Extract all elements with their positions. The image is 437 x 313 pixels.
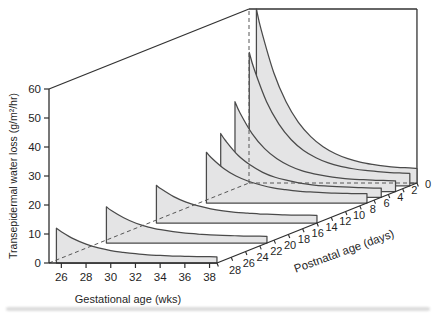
svg-text:28: 28: [229, 264, 241, 276]
svg-text:14: 14: [325, 221, 337, 233]
svg-text:12: 12: [339, 215, 351, 227]
svg-text:26: 26: [243, 257, 255, 269]
svg-text:30: 30: [28, 170, 41, 182]
svg-text:2: 2: [411, 184, 417, 196]
svg-text:28: 28: [80, 271, 93, 283]
svg-text:18: 18: [298, 233, 310, 245]
svg-text:50: 50: [28, 112, 41, 124]
tewl-3d-chart-svg: 0102030405060262830323436382826242220181…: [0, 0, 437, 313]
svg-text:10: 10: [28, 228, 41, 240]
svg-text:36: 36: [178, 271, 191, 283]
svg-text:60: 60: [28, 83, 41, 95]
svg-text:38: 38: [203, 271, 216, 283]
svg-text:4: 4: [397, 191, 403, 203]
svg-text:10: 10: [353, 209, 365, 221]
svg-text:32: 32: [129, 271, 142, 283]
hidden-edges-dashed: [49, 9, 417, 263]
x-axis-title: Gestational age (wks): [75, 293, 181, 305]
ribbon-series: [56, 9, 417, 263]
svg-text:22: 22: [270, 245, 282, 257]
cropped-caption-edge: [6, 307, 430, 311]
svg-text:40: 40: [28, 141, 41, 153]
svg-text:8: 8: [370, 203, 376, 215]
svg-text:20: 20: [284, 239, 296, 251]
svg-text:34: 34: [154, 271, 167, 283]
svg-text:24: 24: [256, 251, 268, 263]
svg-text:20: 20: [28, 199, 41, 211]
svg-text:0: 0: [35, 257, 41, 269]
svg-text:26: 26: [55, 271, 68, 283]
svg-text:16: 16: [312, 227, 324, 239]
svg-text:30: 30: [104, 271, 117, 283]
svg-text:6: 6: [384, 197, 390, 209]
svg-text:0: 0: [425, 178, 431, 190]
tewl-3d-figure: 0102030405060262830323436382826242220181…: [0, 0, 437, 313]
y-axis-title: Transepidermal water loss (g/m²/hr): [7, 93, 19, 259]
